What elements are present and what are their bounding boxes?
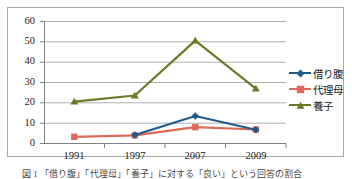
diamond-marker-icon — [289, 66, 311, 80]
x-tick-label-1997: 1997 — [107, 150, 163, 161]
y-tick-marks — [40, 22, 44, 144]
x-tick-label-2007: 2007 — [167, 150, 223, 161]
x-tick-label-2009: 2009 — [228, 150, 284, 161]
x-tick-label-1991: 1991 — [46, 150, 102, 161]
legend-item-dairibo: 代理母 — [289, 81, 351, 97]
x-tick-marks — [105, 144, 287, 149]
figure-caption: 図 1 「借り腹」「代理母」「養子」に対する「良い」という回答の割合 — [22, 167, 342, 179]
legend-item-yoshi: 養子 — [289, 97, 351, 113]
y-tick-label-30: 30 — [11, 77, 35, 87]
y-tick-label-0: 0 — [11, 138, 35, 148]
triangle-marker-icon — [289, 98, 311, 112]
legend-label-karibara: 借り腹 — [311, 66, 343, 81]
y-tick-label-50: 50 — [11, 36, 35, 46]
chart-legend: 借り腹 代理母 養子 — [289, 65, 351, 113]
legend-item-karibara: 借り腹 — [289, 65, 351, 81]
square-marker-icon — [289, 82, 311, 96]
chart-frame: 60 50 40 30 20 10 0 1991 1997 2007 2009 … — [7, 7, 344, 157]
legend-label-dairibo: 代理母 — [311, 82, 343, 97]
y-tick-label-40: 40 — [11, 56, 35, 66]
legend-label-yoshi: 養子 — [311, 98, 333, 113]
y-tick-label-10: 10 — [11, 118, 35, 128]
y-tick-label-20: 20 — [11, 97, 35, 107]
y-tick-label-60: 60 — [11, 16, 35, 26]
chart-screenshot: 60 50 40 30 20 10 0 1991 1997 2007 2009 … — [0, 0, 352, 179]
